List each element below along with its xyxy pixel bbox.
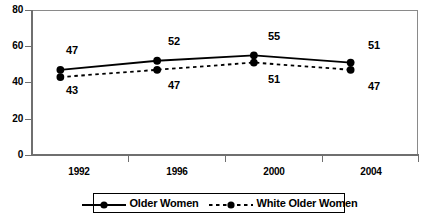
legend-label-white-older-women: White Older Women — [257, 198, 358, 209]
y-axis-tick — [25, 119, 31, 120]
legend: Older Women White Older Women — [93, 193, 345, 213]
y-axis-label-20: 20 — [0, 114, 23, 124]
y-axis-tick — [25, 82, 31, 83]
data-label-older-1996: 52 — [162, 36, 186, 47]
solid-line-circle-marker-icon — [81, 197, 127, 209]
y-axis-label-40: 40 — [0, 77, 23, 87]
x-axis-label-1996: 1996 — [147, 166, 207, 177]
data-label-older-1992: 47 — [60, 45, 84, 56]
y-axis-label-80: 80 — [0, 5, 23, 15]
data-label-white-older-2000: 51 — [262, 74, 286, 85]
y-axis-label-60: 60 — [0, 41, 23, 51]
dashed-line-circle-marker-icon — [208, 197, 254, 209]
x-axis-tick — [418, 156, 419, 162]
data-label-older-2004: 51 — [362, 40, 386, 51]
legend-item-older-women[interactable]: Older Women — [81, 194, 199, 212]
y-axis-line — [31, 10, 33, 156]
plot-area — [31, 10, 418, 155]
data-label-white-older-1996: 47 — [162, 80, 186, 91]
y-axis-tick — [25, 10, 31, 11]
legend-item-white-older-women[interactable]: White Older Women — [208, 194, 358, 212]
x-axis-label-1992: 1992 — [49, 166, 109, 177]
y-axis-label-0: 0 — [0, 150, 23, 160]
line-chart: 80 60 40 20 0 1992 1996 2000 2004 47 52 … — [0, 0, 430, 222]
data-label-older-2000: 55 — [262, 31, 286, 42]
x-axis-label-2004: 2004 — [341, 166, 401, 177]
x-axis-tick — [225, 156, 226, 162]
x-axis-tick — [128, 156, 129, 162]
x-axis-tick — [322, 156, 323, 162]
data-label-white-older-2004: 47 — [362, 81, 386, 92]
y-axis-tick — [25, 46, 31, 47]
x-axis-label-2000: 2000 — [244, 166, 304, 177]
data-label-white-older-1992: 43 — [60, 85, 84, 96]
y-axis-tick — [25, 155, 31, 156]
legend-label-older-women: Older Women — [130, 198, 199, 209]
